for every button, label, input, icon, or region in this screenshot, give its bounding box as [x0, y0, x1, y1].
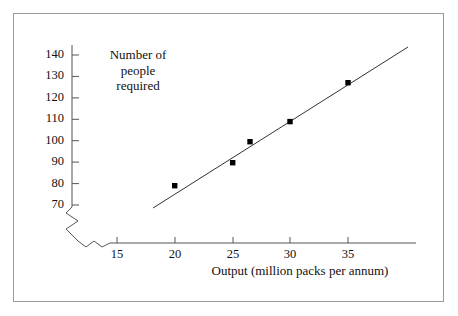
x-axis-title: Output (million packs per annum)	[160, 263, 440, 279]
figure-container: 140 130 120 110 100 90 80 70 15 20 25 30…	[0, 0, 458, 316]
x-tick-label: 25	[216, 248, 250, 261]
y-axis-ticks	[72, 55, 79, 205]
x-tick-label: 30	[273, 248, 307, 261]
x-axis	[72, 235, 416, 247]
data-point	[247, 139, 252, 144]
data-point	[172, 183, 177, 188]
y-axis-title-line: people	[86, 63, 190, 79]
x-tick-label: 15	[100, 248, 134, 261]
y-tick-label: 120	[30, 91, 64, 104]
data-point	[230, 160, 235, 165]
data-points	[172, 80, 351, 188]
data-point	[287, 119, 292, 124]
y-tick-label: 90	[30, 155, 64, 168]
y-axis-title: Number of people required	[86, 47, 190, 94]
x-axis-ticks	[117, 237, 348, 243]
y-axis-title-line: required	[86, 78, 190, 94]
y-axis	[66, 45, 78, 235]
y-axis-title-line: Number of	[86, 47, 190, 63]
x-tick-label: 20	[158, 248, 192, 261]
y-tick-label: 70	[30, 198, 64, 211]
y-tick-label: 140	[30, 48, 64, 61]
y-tick-label: 100	[30, 134, 64, 147]
y-tick-label: 80	[30, 177, 64, 190]
y-tick-label: 130	[30, 69, 64, 82]
trend-line	[153, 47, 408, 208]
x-tick-label: 35	[331, 248, 365, 261]
data-point	[345, 80, 350, 85]
y-tick-label: 110	[30, 112, 64, 125]
